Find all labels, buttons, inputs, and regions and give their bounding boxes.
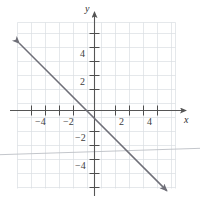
y-tick-label-neg4: −4 (75, 161, 86, 171)
scan-artifact-line (0, 148, 200, 155)
y-tick-label-pos2: 2 (80, 77, 85, 87)
coordinate-plane-figure (0, 0, 200, 204)
y-tick-label-neg2: −2 (75, 133, 86, 143)
x-tick-label-neg2: −2 (63, 117, 74, 127)
x-tick-label-neg4: −4 (35, 117, 46, 127)
y-axis-label: y (85, 4, 89, 14)
x-tick-label-pos4: 4 (147, 117, 152, 127)
x-tick-label-pos2: 2 (119, 117, 124, 127)
y-tick-label-pos4: 4 (80, 49, 85, 59)
x-axis-label: x (184, 115, 188, 125)
axes (10, 12, 186, 196)
